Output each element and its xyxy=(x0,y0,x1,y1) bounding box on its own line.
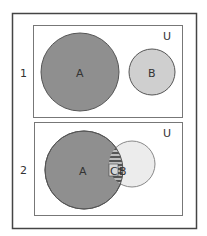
venn-diagram: 1 U A B 2 U A C B xyxy=(0,0,207,236)
universe-label-1: U xyxy=(163,30,171,43)
universe-label-2: U xyxy=(163,127,171,140)
set-a-label-1: A xyxy=(76,67,84,80)
set-b-label-1: B xyxy=(148,67,156,80)
panel-2-label: 2 xyxy=(20,164,27,177)
set-b-label-2: B xyxy=(119,165,127,178)
panel-1-label: 1 xyxy=(20,67,27,80)
intersection-label: C xyxy=(110,165,118,178)
set-a-label-2: A xyxy=(79,165,87,178)
